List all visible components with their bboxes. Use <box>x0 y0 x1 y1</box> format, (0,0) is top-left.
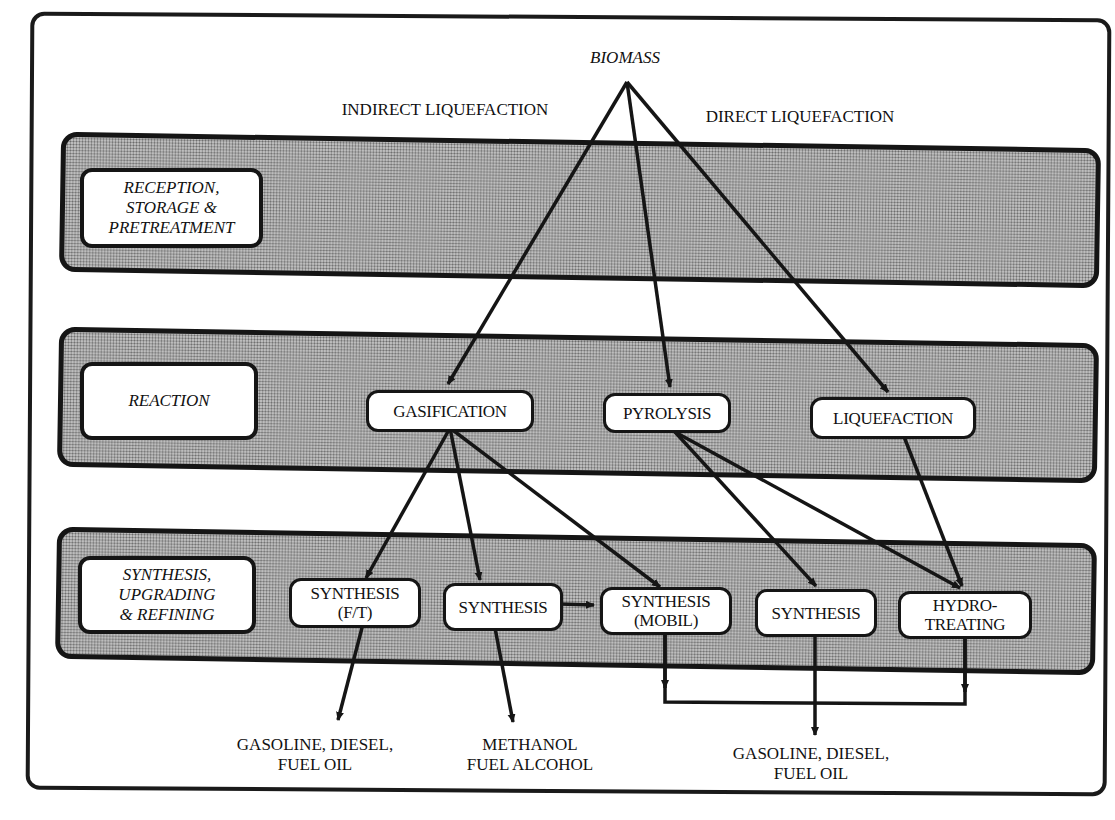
node-hydrotreating: HYDRO- TREATING <box>898 591 1032 639</box>
node-synthesis-methanol: SYNTHESIS <box>443 583 563 631</box>
node-pyrolysis: PYROLYSIS <box>603 393 731 433</box>
node-synthesis-pyrolysis: SYNTHESIS <box>755 589 877 637</box>
stage-label-synthesis: SYNTHESIS, UPGRADING & REFINING <box>78 556 256 634</box>
node-synthesis-ft: SYNTHESIS (F/T) <box>289 578 421 628</box>
biomass-label: BIOMASS <box>560 48 690 68</box>
product-ft-fuels: GASOLINE, DIESEL, FUEL OIL <box>225 735 405 775</box>
node-liquefaction: LIQUEFACTION <box>810 397 976 439</box>
node-synthesis-mobil: SYNTHESIS (MOBIL) <box>600 587 732 635</box>
node-gasification: GASIFICATION <box>366 390 534 432</box>
product-combined-fuels: GASOLINE, DIESEL, FUEL OIL <box>716 744 906 784</box>
product-methanol: METHANOL FUEL ALCOHOL <box>440 735 620 775</box>
direct-liquefaction-label: DIRECT LIQUEFACTION <box>680 107 920 127</box>
stage-label-reception: RECEPTION, STORAGE & PRETREATMENT <box>80 168 263 248</box>
indirect-liquefaction-label: INDIRECT LIQUEFACTION <box>310 100 580 120</box>
stage-label-reaction: REACTION <box>80 362 258 440</box>
